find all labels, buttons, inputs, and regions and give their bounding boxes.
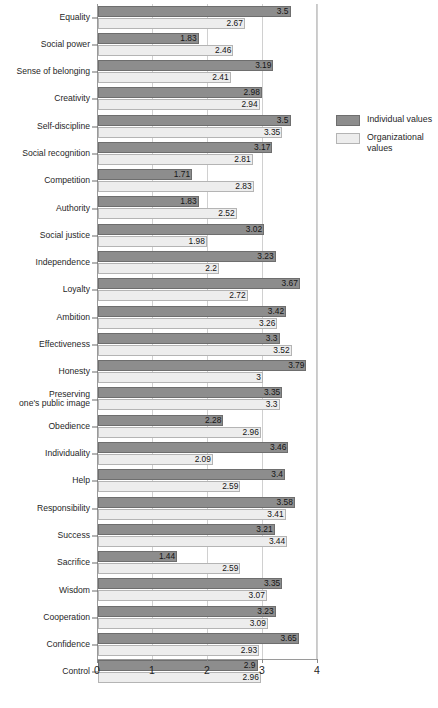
bar-organizational[interactable]: 3.26 bbox=[98, 318, 277, 329]
bar-organizational[interactable]: 3.44 bbox=[98, 536, 287, 547]
bar-individual[interactable]: 3.02 bbox=[98, 224, 264, 235]
bar-individual[interactable]: 3.4 bbox=[98, 469, 285, 480]
bar-rect-organizational bbox=[98, 18, 245, 29]
bar-value-label: 2.94 bbox=[239, 99, 259, 110]
bar-organizational[interactable]: 3.3 bbox=[98, 399, 280, 410]
bar-individual[interactable]: 1.83 bbox=[98, 33, 199, 44]
legend-item-organizational[interactable]: Organizational values bbox=[336, 132, 436, 153]
chart-row: Sense of belonging3.192.41 bbox=[0, 59, 438, 86]
bar-group: 3.423.26 bbox=[98, 304, 438, 331]
bar-organizational[interactable]: 2.2 bbox=[98, 263, 219, 274]
bar-organizational[interactable]: 3.41 bbox=[98, 509, 286, 520]
bar-organizational[interactable]: 1.98 bbox=[98, 236, 207, 247]
bar-rect-organizational bbox=[98, 399, 280, 410]
bar-organizational[interactable]: 3.09 bbox=[98, 618, 268, 629]
bar-value-label: 3.23 bbox=[255, 606, 275, 617]
bar-organizational[interactable]: 2.41 bbox=[98, 72, 231, 83]
bar-rect-organizational bbox=[98, 427, 261, 438]
bar-rect-organizational bbox=[98, 563, 240, 574]
chart-legend: Individual valuesOrganizational values bbox=[336, 114, 436, 159]
bar-organizational[interactable]: 3.35 bbox=[98, 127, 282, 138]
bar-individual[interactable]: 3.35 bbox=[98, 387, 282, 398]
category-label: Independence bbox=[0, 258, 90, 268]
bar-individual[interactable]: 3.67 bbox=[98, 278, 300, 289]
bar-individual[interactable]: 3.23 bbox=[98, 606, 276, 617]
bar-value-label: 2.83 bbox=[233, 181, 253, 192]
bar-value-label: 2.59 bbox=[220, 563, 240, 574]
bar-individual[interactable]: 3.46 bbox=[98, 442, 288, 453]
bar-value-label: 3.26 bbox=[257, 318, 277, 329]
chart-row: Creativity2.982.94 bbox=[0, 86, 438, 113]
bar-organizational[interactable]: 2.09 bbox=[98, 454, 213, 465]
x-axis-tick bbox=[97, 659, 98, 663]
bar-group: 1.832.52 bbox=[98, 195, 438, 222]
bar-organizational[interactable]: 2.59 bbox=[98, 481, 240, 492]
bar-organizational[interactable]: 3 bbox=[98, 372, 263, 383]
bar-individual[interactable]: 3.21 bbox=[98, 524, 275, 535]
bar-individual[interactable]: 1.44 bbox=[98, 551, 177, 562]
bar-group: 3.353.07 bbox=[98, 577, 438, 604]
bar-individual[interactable]: 1.71 bbox=[98, 169, 192, 180]
bar-value-label: 3.42 bbox=[266, 306, 286, 317]
bar-value-label: 1.71 bbox=[172, 169, 192, 180]
bar-group: 1.712.83 bbox=[98, 168, 438, 195]
bar-organizational[interactable]: 2.72 bbox=[98, 290, 248, 301]
bar-group: 3.652.93 bbox=[98, 631, 438, 658]
category-label: Sense of belonging bbox=[0, 67, 90, 77]
bar-rect-individual bbox=[98, 6, 291, 17]
bar-individual[interactable]: 3.35 bbox=[98, 578, 282, 589]
bar-organizational[interactable]: 2.81 bbox=[98, 154, 253, 165]
bar-organizational[interactable]: 2.59 bbox=[98, 563, 240, 574]
bar-individual[interactable]: 2.98 bbox=[98, 87, 262, 98]
category-label: Creativity bbox=[0, 95, 90, 105]
bar-rect-individual bbox=[98, 224, 264, 235]
bar-individual[interactable]: 3.17 bbox=[98, 142, 272, 153]
bar-value-label: 3.23 bbox=[255, 251, 275, 262]
category-label: Wisdom bbox=[0, 586, 90, 596]
bar-value-label: 3 bbox=[254, 372, 263, 383]
bar-individual[interactable]: 3.5 bbox=[98, 6, 291, 17]
bar-individual[interactable]: 3.3 bbox=[98, 333, 280, 344]
bar-individual[interactable]: 3.79 bbox=[98, 360, 306, 371]
bar-individual[interactable]: 3.23 bbox=[98, 251, 276, 262]
bar-value-label: 2.52 bbox=[216, 208, 236, 219]
bar-organizational[interactable]: 2.94 bbox=[98, 99, 260, 110]
bar-organizational[interactable]: 2.83 bbox=[98, 181, 254, 192]
bar-organizational[interactable]: 2.52 bbox=[98, 208, 237, 219]
bar-organizational[interactable]: 2.96 bbox=[98, 427, 261, 438]
bar-rect-individual bbox=[98, 306, 286, 317]
bar-group: 1.832.46 bbox=[98, 31, 438, 58]
bar-rect-individual bbox=[98, 87, 262, 98]
bar-individual[interactable]: 1.83 bbox=[98, 196, 199, 207]
x-axis-tick bbox=[152, 659, 153, 663]
bar-rect-organizational bbox=[98, 481, 240, 492]
bar-individual[interactable]: 3.19 bbox=[98, 60, 273, 71]
x-axis-tick-label: 2 bbox=[204, 664, 210, 676]
bar-group: 3.232.2 bbox=[98, 250, 438, 277]
category-label: Confidence bbox=[0, 640, 90, 650]
legend-item-individual[interactable]: Individual values bbox=[336, 114, 436, 126]
bar-organizational[interactable]: 3.07 bbox=[98, 590, 267, 601]
x-axis-tick-label: 4 bbox=[314, 664, 320, 676]
category-label: Social justice bbox=[0, 231, 90, 241]
bar-individual[interactable]: 3.5 bbox=[98, 115, 291, 126]
bar-value-label: 3.19 bbox=[253, 60, 273, 71]
bar-individual[interactable]: 2.28 bbox=[98, 415, 223, 426]
bar-organizational[interactable]: 3.52 bbox=[98, 345, 292, 356]
bar-rect-organizational bbox=[98, 536, 287, 547]
bar-organizational[interactable]: 2.46 bbox=[98, 45, 233, 56]
x-axis-tick bbox=[207, 659, 208, 663]
chart-row: Equality3.52.67 bbox=[0, 4, 438, 31]
bar-value-label: 2.41 bbox=[210, 72, 230, 83]
chart-row: Confidence3.652.93 bbox=[0, 631, 438, 658]
bar-organizational[interactable]: 2.93 bbox=[98, 645, 259, 656]
bar-individual[interactable]: 3.65 bbox=[98, 633, 299, 644]
bar-rect-individual bbox=[98, 360, 306, 371]
x-axis-tick bbox=[317, 659, 318, 663]
bar-individual[interactable]: 3.58 bbox=[98, 497, 295, 508]
category-label: Individuality bbox=[0, 449, 90, 459]
bar-organizational[interactable]: 2.67 bbox=[98, 18, 245, 29]
bar-group: 3.021.98 bbox=[98, 222, 438, 249]
bar-group: 3.583.41 bbox=[98, 495, 438, 522]
bar-individual[interactable]: 3.42 bbox=[98, 306, 286, 317]
